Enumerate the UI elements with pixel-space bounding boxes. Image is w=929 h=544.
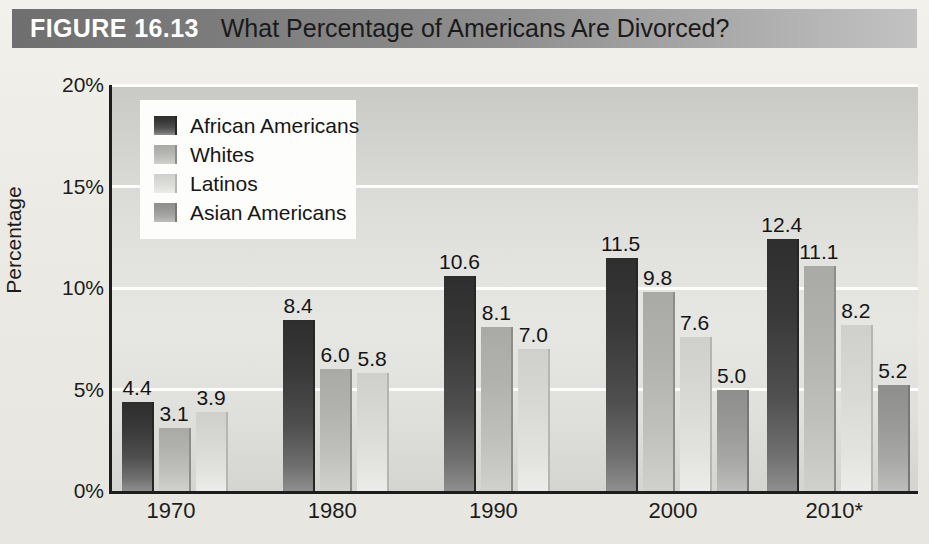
chart-legend: African AmericansWhitesLatinosAsian Amer… bbox=[140, 100, 356, 239]
legend-swatch-icon bbox=[154, 145, 177, 164]
bar-value-label: 3.1 bbox=[159, 402, 188, 426]
bar: 11.5 bbox=[606, 258, 638, 491]
bar: 5.0 bbox=[717, 390, 749, 492]
legend-item: African Americans bbox=[154, 111, 344, 140]
legend-item-label: African Americans bbox=[190, 114, 359, 138]
legend-item: Asian Americans bbox=[154, 198, 344, 227]
bar-value-label: 6.0 bbox=[321, 343, 350, 367]
x-tick-label: 2010* bbox=[806, 498, 864, 524]
legend-item: Latinos bbox=[154, 169, 344, 198]
bar: 7.0 bbox=[518, 349, 550, 491]
legend-item: Whites bbox=[154, 140, 344, 169]
y-tick-label: 15% bbox=[30, 175, 104, 199]
legend-item-label: Whites bbox=[190, 143, 254, 167]
bar-value-label: 4.4 bbox=[122, 376, 151, 400]
bar: 5.8 bbox=[357, 373, 389, 491]
x-axis-ticks: 19701980199020002010* bbox=[109, 498, 915, 534]
x-tick-label: 1980 bbox=[308, 498, 357, 524]
bar: 8.4 bbox=[283, 320, 315, 491]
legend-swatch-icon bbox=[154, 174, 177, 193]
bar: 8.2 bbox=[841, 325, 873, 491]
x-tick-label: 2000 bbox=[649, 498, 698, 524]
bar: 12.4 bbox=[767, 239, 799, 491]
x-tick-label: 1970 bbox=[147, 498, 196, 524]
bar-value-label: 8.4 bbox=[284, 294, 313, 318]
y-axis-ticks: 0%5%10%15%20% bbox=[20, 85, 104, 491]
bar-value-label: 7.6 bbox=[680, 311, 709, 335]
bar-value-label: 11.1 bbox=[799, 240, 838, 264]
y-tick-label: 20% bbox=[30, 73, 104, 97]
bar-value-label: 12.4 bbox=[761, 213, 802, 237]
bar: 3.1 bbox=[159, 428, 191, 491]
bar: 5.2 bbox=[878, 385, 910, 491]
bar-value-label: 8.2 bbox=[841, 299, 870, 323]
y-tick-label: 0% bbox=[30, 479, 104, 503]
figure-number: FIGURE 16.13 bbox=[30, 14, 199, 43]
y-tick-label: 5% bbox=[30, 378, 104, 402]
bar-value-label: 8.1 bbox=[482, 301, 511, 325]
legend-item-label: Asian Americans bbox=[190, 201, 346, 225]
bar-value-label: 3.9 bbox=[196, 386, 225, 410]
bar: 7.6 bbox=[680, 337, 712, 491]
bar: 10.6 bbox=[444, 276, 476, 491]
legend-item-label: Latinos bbox=[190, 172, 258, 196]
bar: 6.0 bbox=[320, 369, 352, 491]
bar-value-label: 7.0 bbox=[519, 323, 548, 347]
figure-container: FIGURE 16.13 What Percentage of American… bbox=[0, 0, 929, 544]
y-tick-label: 10% bbox=[30, 276, 104, 300]
gridline bbox=[112, 84, 918, 87]
legend-swatch-icon bbox=[154, 203, 177, 222]
bar: 11.1 bbox=[804, 266, 836, 491]
bar-value-label: 5.2 bbox=[878, 359, 907, 383]
bar-value-label: 5.8 bbox=[358, 347, 387, 371]
x-tick-label: 1990 bbox=[469, 498, 518, 524]
bar: 8.1 bbox=[481, 327, 513, 491]
bar-value-label: 11.5 bbox=[601, 232, 640, 256]
bar-value-label: 5.0 bbox=[717, 364, 746, 388]
bar: 4.4 bbox=[122, 402, 154, 491]
bar-value-label: 10.6 bbox=[439, 250, 480, 274]
bar: 3.9 bbox=[196, 412, 228, 491]
figure-title: What Percentage of Americans Are Divorce… bbox=[221, 14, 730, 43]
figure-title-bar: FIGURE 16.13 What Percentage of American… bbox=[12, 9, 917, 48]
legend-swatch-icon bbox=[154, 116, 177, 135]
bar: 9.8 bbox=[643, 292, 675, 491]
bar-value-label: 9.8 bbox=[643, 266, 672, 290]
